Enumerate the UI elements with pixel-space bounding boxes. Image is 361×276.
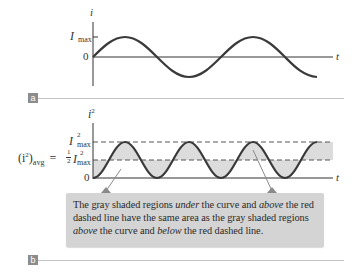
panel-b-divider: [38, 260, 344, 261]
avg-frac-den: 2: [67, 157, 71, 165]
shade-upper-tail: [317, 142, 333, 160]
panel-b-marker: b: [28, 255, 38, 265]
imax-squared-sup: 2: [77, 131, 81, 139]
avg-rhs-sup: 2: [80, 149, 84, 157]
imax-squared-label: I: [69, 134, 73, 149]
panel-b-plot: [93, 123, 333, 193]
avg-equals: =: [49, 151, 56, 165]
callout-emph-above: above: [259, 199, 283, 210]
panel-a-imax-label: I: [70, 29, 74, 44]
panel-b-zero-label: 0: [84, 171, 90, 183]
panel-a-divider: [38, 98, 344, 99]
panel-a-t-label: t: [336, 50, 339, 62]
pointer-line-left: [106, 169, 121, 191]
callout-text-5: the red dashed line.: [182, 225, 264, 236]
callout-emph-above-2: above: [73, 225, 97, 236]
avg-lhs-sub: avg: [33, 158, 45, 167]
panel-a-zero-label: 0: [83, 50, 89, 62]
panel-a-marker: a: [28, 93, 38, 103]
avg-rhs-sub: max: [77, 158, 91, 167]
panel-a-imax-subscript: max: [78, 35, 92, 44]
panel-b-t-label: t: [336, 171, 339, 183]
panel-a-plot: [93, 22, 333, 86]
callout-text-1: The gray shaded regions: [73, 199, 175, 210]
shade-lower-band: [93, 160, 300, 178]
avg-frac-num: 1: [67, 148, 71, 156]
panel-a-y-axis-label: i: [90, 6, 93, 18]
panel-b-y-axis-label: i2: [88, 107, 95, 122]
annotation-callout: The gray shaded regions under the curve …: [66, 193, 324, 247]
callout-text-2: the curve and: [199, 199, 259, 210]
callout-emph-under: under: [175, 199, 199, 210]
imax-squared-sub: max: [77, 140, 91, 149]
callout-emph-below: below: [157, 225, 181, 236]
callout-text-4: the curve and: [97, 225, 157, 236]
average-label: (i2)avg =: [18, 151, 58, 171]
